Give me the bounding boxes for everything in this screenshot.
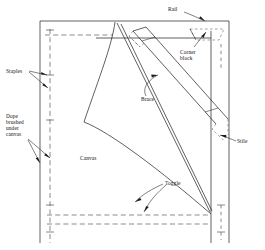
toggle-leader xyxy=(135,184,166,212)
rail-leader xyxy=(184,12,205,21)
label-canvas: Canvas xyxy=(80,155,96,161)
label-corner-block: Corner block xyxy=(180,49,196,61)
label-dope-brushed-under-canvas: Dope brushed under canvas xyxy=(6,113,24,137)
brace-member xyxy=(129,27,228,140)
label-rail: Rail xyxy=(168,6,177,12)
stretcher-frame-diagram: Rail Corner block Brace Stile Staples Do… xyxy=(0,0,265,250)
frame-outline xyxy=(40,21,229,243)
label-brace: Brace xyxy=(141,96,154,102)
diagram-linework xyxy=(0,0,265,250)
label-toggle: Toggle xyxy=(165,180,181,186)
staples-leader xyxy=(29,71,48,88)
label-staples: Staples xyxy=(6,68,22,74)
label-stile: Stile xyxy=(237,138,247,144)
stile-leader xyxy=(220,135,236,141)
dope-leader xyxy=(28,139,50,163)
